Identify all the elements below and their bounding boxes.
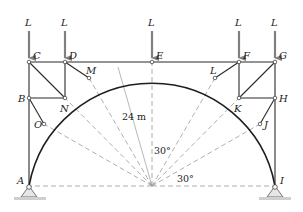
label-C: C	[33, 50, 41, 61]
joint-C	[27, 60, 31, 64]
radius-label: 24 m	[122, 111, 146, 122]
angle-label-top: 30°	[154, 145, 171, 156]
label-J: J	[262, 119, 269, 130]
label-H: H	[278, 93, 288, 104]
joint-O	[42, 122, 46, 126]
pin-icon	[273, 185, 278, 190]
support-A	[14, 185, 46, 200]
label-M: M	[85, 65, 97, 76]
joint-E	[150, 60, 154, 64]
joint-N	[63, 96, 67, 100]
joint-F	[237, 60, 241, 64]
label-N: N	[59, 103, 70, 114]
joint-B	[27, 96, 31, 100]
load-label: L	[60, 17, 68, 28]
label-D: D	[68, 50, 77, 61]
truss-arch-diagram: L L L L L C D E F G B N K H M L O J A I …	[0, 0, 303, 212]
label-F: F	[242, 50, 251, 61]
joint-K	[237, 96, 241, 100]
label-I: I	[279, 175, 285, 186]
load-label: L	[234, 17, 242, 28]
joint-L	[213, 76, 217, 80]
loads: L L L L L	[24, 17, 278, 58]
label-E: E	[155, 50, 164, 61]
ground-icon	[14, 197, 46, 200]
ray-to-O	[44, 124, 152, 186]
label-O: O	[34, 119, 42, 130]
pin-icon	[27, 185, 32, 190]
angle-label-bottom: 30°	[177, 173, 194, 184]
joint-M	[87, 76, 91, 80]
joint-J	[258, 122, 262, 126]
member-F-L	[215, 62, 239, 78]
ground-icon	[259, 197, 291, 200]
joint-G	[273, 60, 277, 64]
support-I	[259, 185, 291, 200]
load-label: L	[24, 17, 32, 28]
joint-H	[273, 96, 277, 100]
ray-to-K	[152, 98, 239, 186]
member-C-N	[29, 62, 65, 98]
label-A: A	[16, 175, 24, 186]
label-B: B	[17, 93, 25, 104]
label-L: L	[209, 65, 217, 76]
joint-D	[63, 60, 67, 64]
member-G-K	[239, 62, 275, 98]
load-label: L	[147, 17, 155, 28]
label-K: K	[233, 103, 242, 114]
construction-rays	[29, 62, 275, 186]
label-G: G	[279, 50, 287, 61]
load-label: L	[270, 17, 278, 28]
